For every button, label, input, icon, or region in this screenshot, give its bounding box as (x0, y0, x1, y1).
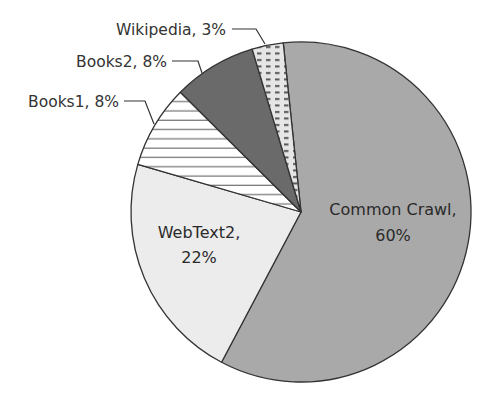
label-webtext2-line1: WebText2, (158, 223, 241, 242)
label-common-crawl-line2: 60% (375, 226, 411, 245)
label-books1: Books1, 8% (28, 93, 119, 111)
books1-callout-line (124, 101, 154, 124)
label-wikipedia: Wikipedia, 3% (116, 21, 226, 39)
label-books2: Books2, 8% (76, 53, 167, 71)
wikipedia-callout-line (232, 29, 265, 44)
label-webtext2-line2: 22% (181, 248, 217, 267)
books2-callout-line (172, 61, 202, 73)
pie-chart: Books1, 8% Books2, 8% Wikipedia, 3% Comm… (0, 0, 494, 411)
label-common-crawl-line1: Common Crawl, (329, 200, 456, 219)
